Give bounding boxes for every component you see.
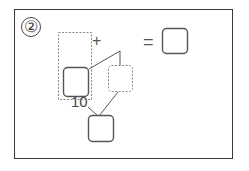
bond-line-right (99, 92, 118, 116)
decomposition-result-box[interactable] (89, 116, 114, 142)
number-bond-diagram (0, 0, 249, 171)
addend-box[interactable] (64, 68, 89, 97)
answer-box[interactable] (163, 29, 188, 54)
bond-line-left (88, 107, 98, 116)
split-part-dashed (109, 66, 133, 92)
bond-line-upper (89, 51, 120, 69)
